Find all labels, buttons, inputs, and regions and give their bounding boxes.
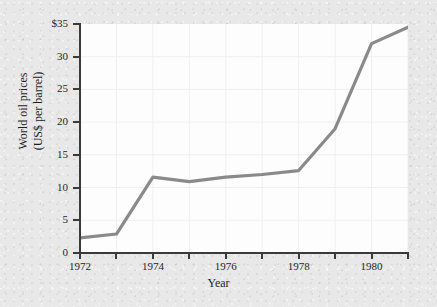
x-axis-tick-label: 1980	[361, 261, 383, 272]
x-axis-tick-label: 1976	[215, 261, 237, 272]
x-axis-tick-label: 1972	[69, 261, 91, 272]
y-axis-tick	[73, 56, 80, 58]
y-axis-tick	[73, 88, 80, 90]
y-axis-tick	[73, 187, 80, 189]
y-axis-tick-label: 20	[57, 116, 68, 127]
x-axis-tick	[225, 253, 227, 259]
x-axis-tick	[407, 253, 409, 259]
x-axis-tick	[115, 253, 117, 259]
y-axis-tick	[73, 23, 80, 25]
chart-figure: 051015202530$35 19721974197619781980 Wor…	[0, 0, 437, 307]
y-axis-tick-label: 25	[57, 83, 68, 94]
x-axis-tick	[298, 253, 300, 259]
y-axis-tick	[73, 154, 80, 156]
x-axis-tick	[334, 253, 336, 259]
y-axis-tick-label: 15	[57, 149, 68, 160]
y-axis-tick	[73, 219, 80, 221]
y-axis-tick-label: 5	[63, 214, 69, 225]
y-axis-tick-label: 0	[63, 247, 69, 258]
y-axis-title-line-1: World oil prices	[16, 36, 31, 186]
x-axis-tick	[152, 253, 154, 259]
y-axis-tick-label: 10	[57, 182, 68, 193]
x-axis-tick	[261, 253, 263, 259]
x-axis-tick-label: 1974	[142, 261, 164, 272]
data-line-world-oil-prices	[80, 24, 408, 253]
x-axis-tick	[79, 253, 81, 259]
plot-area	[80, 24, 408, 253]
y-axis-title: World oil prices (US$ per barrel)	[16, 36, 46, 186]
x-axis-spine	[79, 252, 409, 254]
y-axis-tick-label: $35	[52, 18, 69, 29]
x-axis-tick	[371, 253, 373, 259]
y-axis-tick	[73, 121, 80, 123]
x-axis-tick-label: 1978	[288, 261, 310, 272]
x-axis-tick	[188, 253, 190, 259]
x-axis-title: Year	[0, 276, 437, 291]
y-axis-title-line-2: (US$ per barrel)	[31, 36, 46, 186]
y-axis-tick-label: 30	[57, 51, 68, 62]
